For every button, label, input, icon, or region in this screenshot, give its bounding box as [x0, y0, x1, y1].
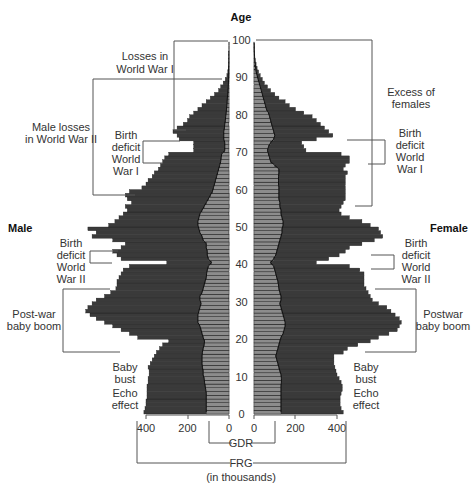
- male-gdr-bar: [205, 380, 230, 384]
- female-gdr-bar: [254, 107, 266, 111]
- units-label: (in thousands): [206, 471, 276, 483]
- female-gdr-bar: [254, 399, 281, 403]
- x-axis-tick-labels: 40020000200400: [137, 422, 346, 434]
- male-bar: [179, 137, 229, 141]
- male-gdr-bar: [198, 321, 229, 325]
- female-gdr-bar: [254, 205, 280, 209]
- female-gdr-bar: [254, 365, 279, 369]
- male-gdr-bar: [203, 287, 229, 291]
- male-gdr-bar: [202, 362, 229, 366]
- female-gdr-bar: [254, 208, 281, 212]
- female-gdr-bar: [254, 216, 282, 220]
- male-gdr-bar: [206, 388, 229, 392]
- male-gdr-bar: [199, 216, 229, 220]
- male-gdr-bar: [199, 227, 229, 231]
- male-gdr-bar: [208, 257, 229, 261]
- male-bar: [202, 104, 229, 108]
- male-bar: [194, 111, 229, 115]
- male-gdr-bar: [224, 126, 229, 130]
- male-gdr-bar: [198, 317, 229, 321]
- x-axis-right: [254, 415, 337, 419]
- male-bar: [206, 100, 229, 104]
- frg-label: FRG: [229, 457, 252, 469]
- male-bar: [190, 115, 229, 119]
- male-gdr-bar: [206, 242, 229, 246]
- female-gdr-bar: [254, 96, 263, 100]
- female-gdr-bar: [254, 231, 282, 235]
- male-gdr-bar: [203, 369, 229, 373]
- male-gdr-bar: [206, 403, 229, 407]
- female-gdr-bar: [254, 306, 281, 310]
- age-axis-title: Age: [231, 11, 252, 23]
- female-gdr-bar: [254, 246, 278, 250]
- male-gdr-bar: [218, 171, 229, 175]
- female-gdr-bar: [254, 380, 281, 384]
- female-gdr-bar: [254, 126, 273, 130]
- male-gdr-bar: [221, 160, 229, 164]
- svg-text:War I: War I: [113, 165, 139, 177]
- age-tick-label: 40: [235, 258, 247, 270]
- svg-text:Excess of: Excess of: [387, 86, 436, 98]
- svg-text:Post-war: Post-war: [12, 308, 56, 320]
- svg-text:Birth: Birth: [115, 129, 138, 141]
- female-gdr-bar: [254, 134, 275, 138]
- male-gdr-bar: [198, 220, 229, 224]
- male-label: Male: [8, 222, 32, 234]
- female-gdr-bar: [254, 264, 274, 268]
- male-gdr-bar: [201, 302, 229, 306]
- female-gdr-bar: [254, 261, 271, 265]
- female-gdr-bar: [254, 156, 270, 160]
- male-gdr-bar: [204, 205, 229, 209]
- male-gdr-bar: [202, 332, 229, 336]
- svg-text:Echo: Echo: [353, 387, 378, 399]
- male-gdr-bar: [206, 407, 229, 411]
- svg-text:deficit: deficit: [396, 139, 425, 151]
- female-gdr-bar: [254, 328, 284, 332]
- female-gdr-bar: [254, 163, 275, 167]
- age-tick-label: 90: [235, 71, 247, 83]
- male-gdr-bar: [225, 141, 229, 145]
- female-gdr-bar: [254, 85, 260, 89]
- male-gdr-bar: [203, 347, 229, 351]
- female-gdr-bar: [254, 119, 271, 123]
- female-gdr-bar: [254, 291, 280, 295]
- age-tick-label: 20: [235, 333, 247, 345]
- svg-text:World: World: [396, 151, 425, 163]
- female-gdr-bar: [254, 249, 277, 253]
- male-bar: [165, 156, 229, 160]
- female-gdr-bar: [254, 336, 281, 340]
- svg-text:Birth: Birth: [405, 237, 428, 249]
- svg-text:Echo: Echo: [112, 387, 137, 399]
- male-bar: [188, 119, 230, 123]
- female-gdr-bar: [254, 186, 279, 190]
- svg-text:World: World: [112, 153, 141, 165]
- svg-text:Birth: Birth: [60, 237, 83, 249]
- male-gdr-bar: [202, 208, 229, 212]
- female-gdr-bar: [254, 122, 272, 126]
- female-gdr-bar: [254, 407, 281, 411]
- female-gdr-bar: [254, 115, 270, 119]
- age-tick-label: 0: [238, 408, 244, 420]
- svg-text:bust: bust: [115, 373, 136, 385]
- svg-text:War I: War I: [397, 163, 423, 175]
- female-gdr-bar: [254, 298, 281, 302]
- female-gdr-bar: [254, 339, 280, 343]
- male-gdr-bar: [219, 167, 229, 171]
- female-gdr-bar: [254, 395, 281, 399]
- male-gdr-bar: [206, 392, 229, 396]
- female-gdr-bar: [254, 392, 281, 396]
- male-gdr-bar: [225, 149, 229, 153]
- female-gdr-bar: [254, 220, 283, 224]
- male-bar: [194, 141, 229, 145]
- female-gdr-bar: [254, 235, 281, 239]
- female-gdr-bar: [254, 388, 281, 392]
- female-gdr-bar: [254, 309, 282, 313]
- male-bar: [194, 145, 229, 149]
- female-gdr-bar: [254, 167, 279, 171]
- male-gdr-bar: [211, 261, 229, 265]
- svg-text:World: World: [57, 261, 86, 273]
- female-gdr-bar: [254, 283, 279, 287]
- female-gdr-bar: [254, 238, 280, 242]
- x-tick-label: 0: [226, 422, 232, 434]
- female-gdr-bar: [254, 130, 274, 134]
